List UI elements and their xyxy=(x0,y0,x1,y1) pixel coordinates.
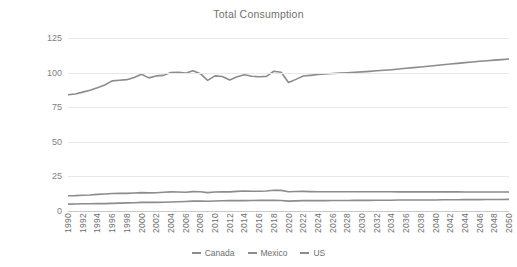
x-tick-label: 2044 xyxy=(460,213,470,233)
x-tick-label: 2016 xyxy=(254,213,264,233)
x-tick-label: 2050 xyxy=(504,213,514,233)
x-tick-label: 2028 xyxy=(342,213,352,233)
chart-legend: CanadaMexicoUS xyxy=(0,248,517,258)
x-tick-label: 2032 xyxy=(372,213,382,233)
gridline xyxy=(68,38,509,39)
x-tick-label: 2022 xyxy=(298,213,308,233)
x-tick-label: 2040 xyxy=(431,213,441,233)
x-tick-label: 2004 xyxy=(166,213,176,233)
legend-swatch-icon xyxy=(248,252,257,254)
legend-item-us[interactable]: US xyxy=(300,248,325,258)
legend-label: Mexico xyxy=(261,248,288,258)
y-axis-tick-labels: 0255075100125 xyxy=(30,38,62,211)
x-tick-label: 2048 xyxy=(489,213,499,233)
x-tick-label: 2018 xyxy=(269,213,279,233)
plot-area xyxy=(68,38,509,211)
x-tick-label: 2012 xyxy=(225,213,235,233)
series-lines xyxy=(68,38,509,211)
x-tick-label: 2036 xyxy=(401,213,411,233)
gridline xyxy=(68,142,509,143)
y-tick-label: 50 xyxy=(32,138,62,147)
chart-container: Total Consumption Quad Btu 0255075100125… xyxy=(0,0,517,267)
series-line-us xyxy=(68,59,509,95)
y-tick-label: 75 xyxy=(32,103,62,112)
x-tick-label: 2006 xyxy=(181,213,191,233)
gridline xyxy=(68,73,509,74)
y-tick-label: 25 xyxy=(32,172,62,181)
x-tick-label: 2010 xyxy=(210,213,220,233)
x-tick-label: 2020 xyxy=(284,213,294,233)
x-tick-label: 2008 xyxy=(195,213,205,233)
legend-item-mexico[interactable]: Mexico xyxy=(248,248,288,258)
x-tick-label: 1990 xyxy=(63,213,73,233)
y-tick-label: 0 xyxy=(32,207,62,216)
legend-label: US xyxy=(313,248,325,258)
x-tick-label: 2024 xyxy=(313,213,323,233)
x-tick-label: 2014 xyxy=(239,213,249,233)
gridline xyxy=(68,211,509,212)
x-tick-label: 1992 xyxy=(78,213,88,233)
gridline xyxy=(68,176,509,177)
x-tick-label: 1996 xyxy=(107,213,117,233)
y-tick-label: 125 xyxy=(32,34,62,43)
x-tick-label: 2034 xyxy=(386,213,396,233)
x-tick-label: 2026 xyxy=(328,213,338,233)
gridline xyxy=(68,107,509,108)
x-tick-label: 2030 xyxy=(357,213,367,233)
x-tick-label: 2000 xyxy=(137,213,147,233)
legend-swatch-icon xyxy=(192,252,201,254)
legend-label: Canada xyxy=(205,248,235,258)
x-tick-label: 2038 xyxy=(416,213,426,233)
x-tick-label: 2042 xyxy=(445,213,455,233)
series-line-mexico xyxy=(68,199,509,204)
x-tick-label: 1994 xyxy=(92,213,102,233)
legend-swatch-icon xyxy=(300,252,309,254)
x-tick-label: 2002 xyxy=(151,213,161,233)
y-tick-label: 100 xyxy=(32,69,62,78)
x-tick-label: 2046 xyxy=(475,213,485,233)
x-tick-label: 1998 xyxy=(122,213,132,233)
series-line-canada xyxy=(68,190,509,196)
legend-item-canada[interactable]: Canada xyxy=(192,248,235,258)
x-axis-tick-labels: 1990199219941996199820002002200420062008… xyxy=(68,213,509,251)
chart-title: Total Consumption xyxy=(0,8,517,20)
